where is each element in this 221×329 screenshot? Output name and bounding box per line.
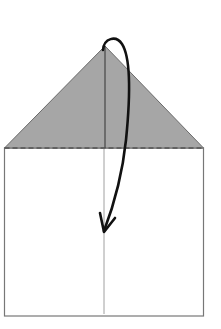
fold-diagram-svg [0, 0, 221, 329]
shaded-flap [5, 46, 204, 148]
origami-diagram [0, 0, 221, 329]
